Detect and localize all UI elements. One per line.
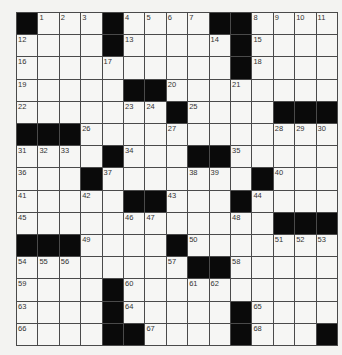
crossword-cell[interactable]: 50 [188,235,208,256]
crossword-cell[interactable] [252,279,272,300]
crossword-cell[interactable] [295,57,315,78]
crossword-cell[interactable] [81,279,101,300]
crossword-cell[interactable] [210,191,230,212]
crossword-cell[interactable] [103,80,123,101]
crossword-cell[interactable] [60,302,80,323]
crossword-cell[interactable] [38,80,58,101]
crossword-cell[interactable]: 19 [17,80,37,101]
crossword-cell[interactable] [145,57,165,78]
crossword-cell[interactable]: 26 [81,124,101,145]
crossword-cell[interactable] [274,57,294,78]
crossword-cell[interactable] [317,302,337,323]
crossword-cell[interactable] [188,191,208,212]
crossword-cell[interactable]: 66 [17,324,37,345]
crossword-cell[interactable] [38,168,58,189]
crossword-cell[interactable] [60,80,80,101]
crossword-cell[interactable] [167,57,187,78]
crossword-cell[interactable]: 62 [210,279,230,300]
crossword-cell[interactable] [145,146,165,167]
crossword-cell[interactable]: 45 [17,213,37,234]
crossword-cell[interactable] [145,168,165,189]
crossword-cell[interactable] [81,324,101,345]
crossword-cell[interactable]: 2 [60,13,80,34]
crossword-cell[interactable]: 42 [81,191,101,212]
crossword-cell[interactable]: 55 [38,257,58,278]
crossword-cell[interactable] [81,35,101,56]
crossword-cell[interactable]: 60 [124,279,144,300]
crossword-cell[interactable] [252,146,272,167]
crossword-cell[interactable] [103,235,123,256]
crossword-cell[interactable]: 39 [210,168,230,189]
crossword-cell[interactable]: 28 [274,124,294,145]
crossword-cell[interactable] [210,57,230,78]
crossword-cell[interactable] [295,191,315,212]
crossword-cell[interactable] [317,257,337,278]
crossword-cell[interactable] [81,302,101,323]
crossword-cell[interactable]: 15 [252,35,272,56]
crossword-cell[interactable]: 58 [231,257,251,278]
crossword-cell[interactable] [317,80,337,101]
crossword-cell[interactable] [210,124,230,145]
crossword-cell[interactable]: 34 [124,146,144,167]
crossword-cell[interactable] [124,235,144,256]
crossword-cell[interactable]: 11 [317,13,337,34]
crossword-cell[interactable] [38,191,58,212]
crossword-cell[interactable]: 25 [188,102,208,123]
crossword-cell[interactable] [274,324,294,345]
crossword-cell[interactable] [295,35,315,56]
crossword-cell[interactable] [252,80,272,101]
crossword-cell[interactable] [317,35,337,56]
crossword-cell[interactable] [81,102,101,123]
crossword-cell[interactable] [295,302,315,323]
crossword-cell[interactable] [274,35,294,56]
crossword-cell[interactable] [38,324,58,345]
crossword-cell[interactable] [167,146,187,167]
crossword-cell[interactable]: 52 [295,235,315,256]
crossword-cell[interactable]: 36 [17,168,37,189]
crossword-cell[interactable]: 43 [167,191,187,212]
crossword-cell[interactable] [295,257,315,278]
crossword-cell[interactable]: 3 [81,13,101,34]
crossword-cell[interactable] [295,279,315,300]
crossword-cell[interactable] [167,213,187,234]
crossword-cell[interactable] [252,213,272,234]
crossword-cell[interactable]: 63 [17,302,37,323]
crossword-cell[interactable] [231,124,251,145]
crossword-cell[interactable]: 4 [124,13,144,34]
crossword-cell[interactable] [210,213,230,234]
crossword-cell[interactable] [38,279,58,300]
crossword-cell[interactable]: 59 [17,279,37,300]
crossword-cell[interactable] [188,80,208,101]
crossword-cell[interactable] [317,279,337,300]
crossword-cell[interactable] [81,80,101,101]
crossword-cell[interactable] [124,168,144,189]
crossword-cell[interactable] [274,279,294,300]
crossword-cell[interactable] [295,324,315,345]
crossword-cell[interactable] [167,168,187,189]
crossword-cell[interactable]: 7 [188,13,208,34]
crossword-cell[interactable] [317,57,337,78]
crossword-cell[interactable] [60,191,80,212]
crossword-cell[interactable]: 40 [274,168,294,189]
crossword-cell[interactable] [231,235,251,256]
crossword-cell[interactable]: 46 [124,213,144,234]
crossword-cell[interactable] [188,324,208,345]
crossword-cell[interactable] [210,102,230,123]
crossword-cell[interactable] [317,168,337,189]
crossword-cell[interactable] [60,57,80,78]
crossword-cell[interactable] [252,124,272,145]
crossword-cell[interactable]: 64 [124,302,144,323]
crossword-cell[interactable] [38,57,58,78]
crossword-cell[interactable]: 17 [103,57,123,78]
crossword-cell[interactable]: 56 [60,257,80,278]
crossword-cell[interactable]: 1 [38,13,58,34]
crossword-cell[interactable] [167,35,187,56]
crossword-cell[interactable] [167,279,187,300]
crossword-cell[interactable]: 10 [295,13,315,34]
crossword-cell[interactable] [38,102,58,123]
crossword-cell[interactable] [81,257,101,278]
crossword-cell[interactable]: 49 [81,235,101,256]
crossword-cell[interactable] [210,80,230,101]
crossword-cell[interactable] [231,168,251,189]
crossword-cell[interactable]: 13 [124,35,144,56]
